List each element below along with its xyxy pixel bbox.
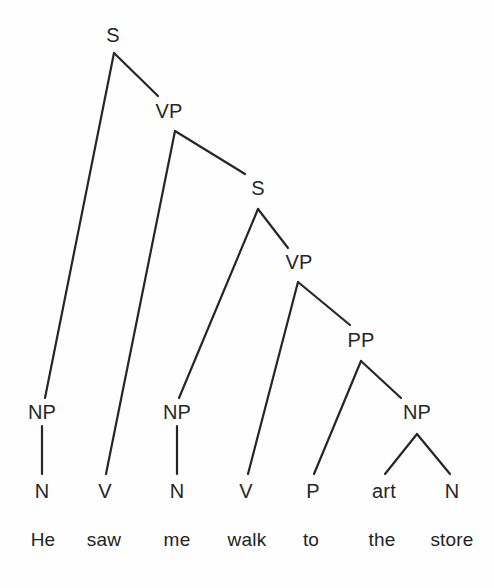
tree-edge-np3-to-n3 <box>417 434 450 474</box>
tree-edge-pp1-to-p1 <box>314 361 361 474</box>
sentence-word-w2: saw <box>87 530 121 549</box>
sentence-word-w4: walk <box>228 530 267 549</box>
tree-node-n1: N <box>35 481 50 501</box>
tree-node-s1: S <box>106 25 120 45</box>
tree-node-n2: N <box>170 481 185 501</box>
tree-node-v1: V <box>98 481 112 501</box>
tree-edge-s2-to-vp2 <box>258 209 288 248</box>
tree-node-n3: N <box>445 481 460 501</box>
tree-edge-vp2-to-pp1 <box>298 282 350 325</box>
tree-edge-vp2-to-v2 <box>248 282 298 474</box>
tree-node-np2: NP <box>163 402 191 422</box>
tree-node-pp1: PP <box>347 330 374 350</box>
tree-node-v2: V <box>239 481 253 501</box>
tree-edge-s1-to-vp1 <box>114 53 158 96</box>
sentence-word-w7: store <box>430 530 473 549</box>
tree-node-p1: P <box>306 481 320 501</box>
syntax-tree-figure: SVPSVPPPNPNPNPNVNVPartN Hesawmewalktothe… <box>0 0 494 588</box>
sentence-word-w3: me <box>164 530 191 549</box>
tree-node-s2: S <box>251 178 265 198</box>
tree-node-art: art <box>372 481 396 501</box>
tree-edge-np3-to-art <box>385 434 417 474</box>
tree-edge-vp1-to-s2 <box>175 131 245 174</box>
sentence-word-w1: He <box>31 530 56 549</box>
tree-node-vp1: VP <box>155 101 182 121</box>
tree-edge-s1-to-np1 <box>45 53 114 398</box>
tree-node-vp2: VP <box>285 252 312 272</box>
sentence-word-w6: the <box>368 530 395 549</box>
sentence-word-w5: to <box>303 530 319 549</box>
tree-edge-pp1-to-np3 <box>361 361 401 398</box>
tree-node-np1: NP <box>28 402 56 422</box>
tree-edge-s2-to-np2 <box>179 209 258 398</box>
tree-node-np3: NP <box>403 402 431 422</box>
